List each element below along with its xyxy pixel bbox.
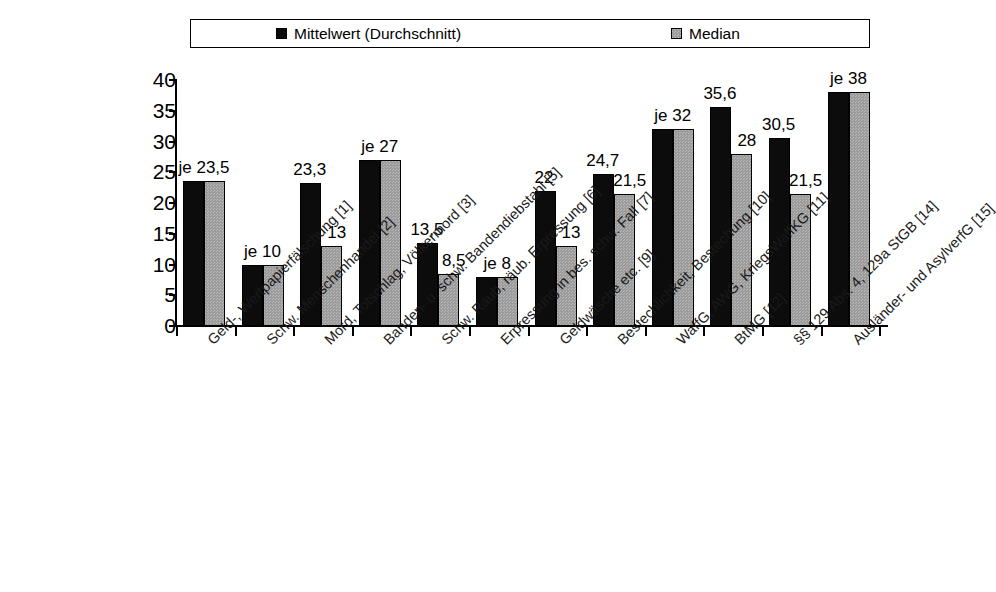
- y-axis-tick-label: 20: [114, 192, 176, 213]
- y-axis-tick-label: 15: [114, 223, 176, 244]
- bar-value-label: je 27: [361, 138, 398, 155]
- x-axis-tick: [176, 327, 178, 336]
- x-axis-tick: [352, 327, 354, 336]
- y-axis-tick-label: 35: [114, 100, 176, 121]
- y-axis-tick-label: 30: [114, 131, 176, 152]
- y-axis-tick-label: 5: [114, 284, 176, 305]
- x-axis-tick: [645, 327, 647, 336]
- bar-value-label: 35,6: [703, 85, 736, 102]
- bar-value-label: 21,5: [789, 172, 822, 189]
- y-axis-tick-label: 10: [114, 254, 176, 275]
- y-axis-tick-label: 40: [114, 69, 176, 90]
- x-axis-tick: [235, 327, 237, 336]
- bar-value-label: 23,3: [293, 161, 326, 178]
- y-axis-tick-label: 0: [114, 315, 176, 336]
- bar-mittelwert: [183, 181, 204, 326]
- bar-median: [204, 181, 225, 326]
- bar-value-label: je 23,5: [179, 159, 230, 176]
- x-axis-tick: [469, 327, 471, 336]
- bar-value-label: 24,7: [586, 152, 619, 169]
- bar-value-label: 21,5: [613, 172, 646, 189]
- bar-value-label: je 38: [830, 70, 867, 87]
- bar-value-label: je 10: [244, 243, 281, 260]
- bar-value-label: 28: [737, 132, 756, 149]
- bar-median: [380, 160, 401, 326]
- bar-value-label: je 32: [654, 107, 691, 124]
- bar-median: [731, 154, 752, 326]
- x-axis-tick: [762, 327, 764, 336]
- x-axis-tick: [821, 327, 823, 336]
- bar-value-label: 30,5: [762, 116, 795, 133]
- y-axis-tick-label: 25: [114, 161, 176, 182]
- x-axis-tick: [528, 327, 530, 336]
